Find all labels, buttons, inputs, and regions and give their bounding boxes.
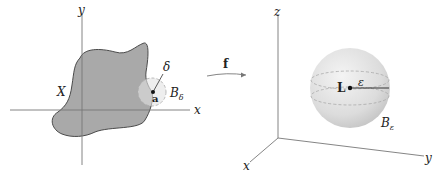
x-axis-label: x: [194, 103, 201, 117]
region-x: [52, 43, 152, 137]
ball-b-epsilon-label: Bε: [380, 116, 394, 132]
left-panel: y x X a δ Bδ: [10, 3, 201, 165]
z-axis-label: z: [273, 5, 281, 19]
delta-label: δ: [163, 60, 170, 74]
mapping-f: f: [207, 57, 246, 78]
epsilon-label: ε: [358, 76, 364, 89]
y-axis-3d: [278, 138, 424, 156]
x-axis-3d: [250, 138, 278, 162]
mapping-arrow: [207, 74, 246, 76]
x-axis-3d-label: x: [243, 159, 250, 173]
mapping-f-label: f: [223, 57, 229, 71]
ball-b-delta-label: Bδ: [169, 86, 184, 102]
point-l: [348, 86, 352, 90]
y-axis-3d-label: y: [424, 151, 432, 165]
y-axis-label: y: [77, 3, 85, 17]
right-panel: z y x L ε Bε: [243, 5, 432, 173]
arrowhead-icon: [241, 73, 246, 78]
limit-definition-diagram: y x X a δ Bδ f z y x L ε Bε: [0, 0, 437, 173]
set-x-label: X: [56, 85, 66, 99]
point-l-label: L: [337, 81, 346, 95]
point-a-label: a: [152, 93, 159, 104]
